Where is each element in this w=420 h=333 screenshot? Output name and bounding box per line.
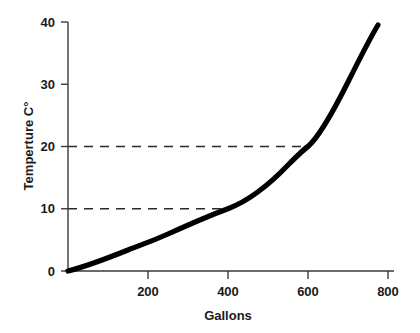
y-tick-label-40: 40: [41, 15, 55, 30]
x-tick-label-800: 800: [377, 284, 399, 299]
x-tick-label-600: 600: [297, 284, 319, 299]
y-tick-label-0: 0: [48, 264, 55, 279]
y-tick-label-30: 30: [41, 77, 55, 92]
x-tick-label-200: 200: [137, 284, 159, 299]
x-tick-label-400: 400: [217, 284, 239, 299]
chart-figure: 40 30 20 10 0 200 400 600 800 Temperture…: [0, 0, 420, 333]
y-tick-label-10: 10: [41, 201, 55, 216]
x-axis-title: Gallons: [204, 308, 252, 323]
y-tick-label-20: 20: [41, 139, 55, 154]
chart-background: [0, 0, 420, 333]
line-chart: 40 30 20 10 0 200 400 600 800 Temperture…: [0, 0, 420, 333]
y-axis-title: Temperture C°: [21, 102, 36, 191]
